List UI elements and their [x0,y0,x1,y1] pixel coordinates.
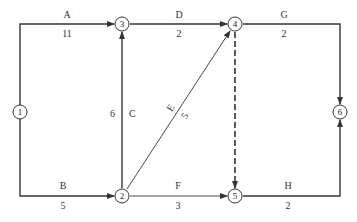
node-1: 1 [13,105,27,119]
activity-f-name: F [175,180,181,191]
activity-c-name: C [129,108,136,119]
activity-b-arrow [20,119,114,196]
activity-e-arrow [127,31,230,189]
activity-c-duration: 6 [110,108,115,119]
activity-g-name: G [280,9,287,20]
node-4: 4 [228,17,242,31]
node-6-label: 6 [338,107,343,117]
activity-b-duration: 5 [61,200,66,211]
network-diagram: A 11 B 5 C 6 D 2 E 5 F 3 G 2 H 2 1 2 3 4… [0,0,357,222]
node-5: 5 [228,189,242,203]
node-3-label: 3 [120,19,125,29]
activity-b-name: B [60,180,67,191]
activity-a-duration: 11 [62,28,72,39]
activity-d-name: D [175,9,182,20]
node-1-label: 1 [18,107,23,117]
activity-e-name: E [164,102,177,113]
node-2: 2 [115,189,129,203]
activity-h-duration: 2 [286,200,291,211]
activity-e-duration: 5 [179,111,191,121]
activity-g-arrow [243,24,340,104]
activity-h-name: H [284,180,291,191]
activity-f-duration: 3 [176,200,181,211]
activity-g-duration: 2 [282,28,287,39]
node-5-label: 5 [233,191,238,201]
node-3: 3 [115,17,129,31]
node-2-label: 2 [120,191,125,201]
activity-a-name: A [63,9,71,20]
activity-d-duration: 2 [177,28,182,39]
node-4-label: 4 [233,19,238,29]
node-6: 6 [333,105,347,119]
